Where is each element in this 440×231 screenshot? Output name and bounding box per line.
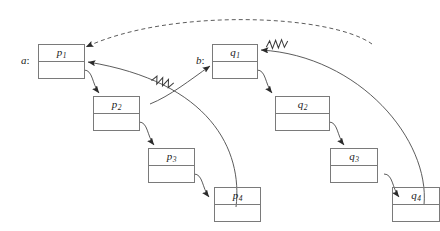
node-q1: q1 [212,44,258,79]
node-p3-pointer-cell [149,166,194,183]
node-p4-pointer-cell [215,205,260,222]
node-p2-label: p2 [112,99,121,110]
node-p1-label: p1 [57,47,66,58]
edge-p1-p2 [84,70,99,93]
node-p3-label: p3 [167,151,176,162]
node-p3-value-cell: p3 [149,149,194,166]
node-q3-pointer-cell [331,166,377,183]
variable-label-a: a: [21,55,30,66]
node-p3: p3 [148,148,195,183]
node-q4-pointer-cell [393,205,439,222]
node-q1-label: q1 [230,47,239,58]
node-p1-value-cell: p1 [39,45,84,62]
variable-colon-a: : [27,54,30,66]
variable-label-b: b: [196,55,205,66]
node-q4-label: q4 [411,190,420,201]
node-q1-value-cell: q1 [213,45,257,62]
node-p4-label: p4 [233,190,242,201]
node-p2: p2 [93,96,140,131]
edge-p3-p4 [194,174,209,197]
node-p2-pointer-cell [94,114,139,131]
node-p4-value-cell: p4 [215,188,260,205]
node-q2-value-cell: q2 [276,97,329,114]
node-q2-pointer-cell [276,114,329,131]
edge-p2-p3 [139,122,154,145]
edge-q2-q3 [329,122,344,145]
edge-q4-p1 [86,20,372,47]
edge-p4-b [150,66,210,104]
node-q2: q2 [275,96,330,131]
node-q3-value-cell: q3 [331,149,377,166]
zigzag-break-mark-p4-p1 [151,75,174,89]
node-p1-pointer-cell [39,62,84,79]
node-p1: p1 [38,44,85,79]
node-p2-value-cell: p2 [94,97,139,114]
zigzag-break-mark-q4-q1 [266,39,289,49]
node-p4: p4 [214,187,261,222]
edge-q1-q2 [257,70,272,93]
node-q3: q3 [330,148,378,183]
variable-colon-b: : [202,54,205,66]
node-q1-pointer-cell [213,62,257,79]
node-q3-label: q3 [349,151,358,162]
node-q4-value-cell: q4 [393,188,439,205]
node-q4: q4 [392,187,440,222]
node-q2-label: q2 [298,99,307,110]
